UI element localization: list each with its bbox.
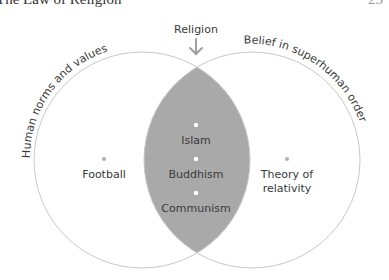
item-theory-of-relativity-line1: Theory of (260, 168, 314, 181)
set-label-human-norms: Human norms and values (20, 42, 109, 159)
item-football: Football (82, 168, 126, 181)
dot-marker-buddhism (194, 157, 198, 161)
intersection-region (144, 52, 360, 268)
dot-marker-football (102, 157, 106, 161)
right-only-items: Theory of relativity (260, 157, 314, 195)
left-only-items: Football (82, 157, 126, 181)
item-buddhism: Buddhism (169, 168, 224, 181)
dot-marker-communism (194, 191, 198, 195)
religion-label: Religion (174, 23, 218, 36)
item-islam: Islam (181, 134, 211, 147)
down-arrow-icon (190, 39, 202, 54)
dot-marker-islam (194, 123, 198, 127)
dot-marker-theory-of-relativity (285, 157, 289, 161)
item-theory-of-relativity-line2: relativity (263, 182, 312, 195)
venn-diagram: Human norms and values Belief in superhu… (0, 0, 389, 280)
book-page: The Law of Religion 25 Human norms and v… (0, 0, 389, 280)
item-communism: Communism (161, 202, 230, 215)
set-label-superhuman-order: Belief in superhuman order (244, 33, 370, 124)
